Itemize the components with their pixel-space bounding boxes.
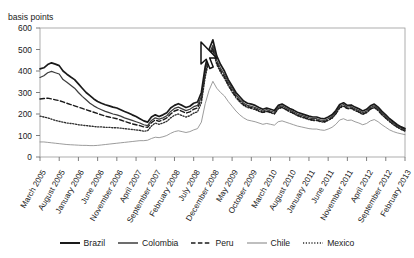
series-line-chile — [40, 81, 405, 145]
series-line-peru — [40, 48, 405, 131]
plot-area — [0, 0, 414, 258]
chart-legend: BrazilColombiaPeruChileMexico — [0, 238, 414, 248]
y-tick-label: 100 — [6, 131, 32, 141]
series-line-mexico — [40, 50, 405, 131]
plot-frame — [40, 28, 405, 157]
legend-item-peru[interactable]: Peru — [191, 238, 233, 248]
legend-swatch-mexico-icon — [303, 239, 323, 247]
series-lines — [40, 40, 405, 146]
legend-label: Brazil — [84, 238, 106, 248]
mouse-pointer-icon — [199, 41, 221, 71]
legend-label: Chile — [271, 238, 291, 248]
legend-item-mexico[interactable]: Mexico — [303, 238, 354, 248]
legend-swatch-colombia-icon — [118, 239, 138, 247]
series-line-colombia — [40, 45, 405, 130]
legend-swatch-brazil-icon — [60, 239, 80, 247]
legend-label: Mexico — [327, 238, 354, 248]
y-tick-label: 500 — [6, 45, 32, 55]
chart-root: basis points 0100200300400500600 March 2… — [0, 0, 414, 258]
y-tick-label: 400 — [6, 66, 32, 76]
y-tick-label: 600 — [6, 23, 32, 33]
legend-item-colombia[interactable]: Colombia — [118, 238, 178, 248]
y-tick-label: 200 — [6, 109, 32, 119]
y-tick-label: 300 — [6, 88, 32, 98]
y-tick-label: 0 — [6, 152, 32, 162]
legend-item-brazil[interactable]: Brazil — [60, 238, 106, 248]
legend-label: Colombia — [142, 238, 178, 248]
series-line-brazil — [40, 40, 405, 129]
legend-swatch-peru-icon — [191, 239, 211, 247]
plot-svg — [0, 0, 414, 258]
legend-label: Peru — [215, 238, 233, 248]
legend-item-chile[interactable]: Chile — [247, 238, 291, 248]
legend-swatch-chile-icon — [247, 239, 267, 247]
